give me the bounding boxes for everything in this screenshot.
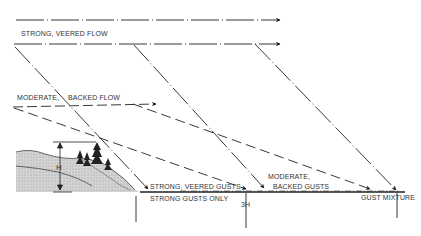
- label-gust-mixture: GUST MIXTURE: [361, 194, 415, 201]
- label-moderate: MODERATE,: [17, 94, 59, 101]
- label-strong-veered-gusts: STRONG, VEERED GUSTS: [150, 183, 241, 190]
- label-strong-gusts-only: STRONG GUSTS ONLY: [150, 195, 228, 202]
- label-3h: 3H: [241, 201, 250, 208]
- label-backed-gusts: BACKED GUSTS: [273, 183, 329, 190]
- wind-flow-diagram: STRONG, VEERED FLOW MODERATE, BACKED FLO…: [0, 0, 421, 236]
- label-moderate-gusts: MODERATE,: [268, 173, 310, 180]
- label-backed-flow: BACKED FLOW: [68, 94, 120, 101]
- label-strong-veered-flow: STRONG, VEERED FLOW: [21, 30, 108, 37]
- ground-line: [140, 191, 405, 192]
- label-height: H: [56, 164, 62, 172]
